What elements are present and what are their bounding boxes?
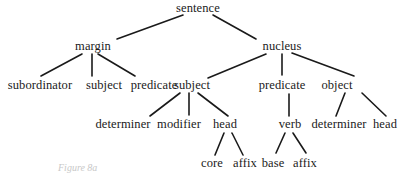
edge-object-head (362, 93, 386, 116)
edge-object-determiner (336, 93, 345, 116)
node-nucleus-predicate: predicate (259, 79, 306, 92)
node-sentence: sentence (176, 2, 220, 15)
edge-subject-head (198, 93, 228, 116)
node-subject-determiner: determiner (95, 118, 150, 131)
node-verb-affix: affix (293, 157, 317, 170)
node-nucleus: nucleus (263, 40, 302, 53)
edge-nucleus-object (292, 53, 354, 76)
node-verb-base: base (262, 157, 285, 170)
node-predicate-verb: verb (279, 118, 302, 131)
edge-margin-subordinator (41, 54, 82, 76)
node-subject-head: head (213, 118, 237, 131)
node-nucleus-object: object (321, 79, 352, 92)
node-head-affix: affix (233, 157, 257, 170)
edge-head-affix (232, 133, 243, 155)
node-margin: margin (75, 40, 111, 53)
node-head-core: core (201, 157, 223, 170)
edge-sentence-margin (117, 15, 183, 39)
node-object-determiner: determiner (311, 118, 366, 131)
edge-subject-determiner (150, 93, 180, 116)
edge-nucleus-subject (208, 54, 266, 78)
node-nucleus-subject: subject (174, 79, 210, 92)
edge-head-core (215, 133, 224, 155)
node-object-head: head (373, 118, 397, 131)
figure-caption: Figure 8a (58, 162, 97, 173)
node-margin-subject: subject (86, 79, 122, 92)
node-margin-predicate: predicate (131, 79, 178, 92)
edge-verb-affix (293, 133, 306, 153)
node-subject-modifier: modifier (157, 118, 201, 131)
edge-verb-base (276, 133, 285, 153)
edge-sentence-nucleus (213, 15, 256, 39)
node-margin-subordinator: subordinator (8, 79, 72, 92)
edge-margin-predicate (98, 54, 135, 76)
